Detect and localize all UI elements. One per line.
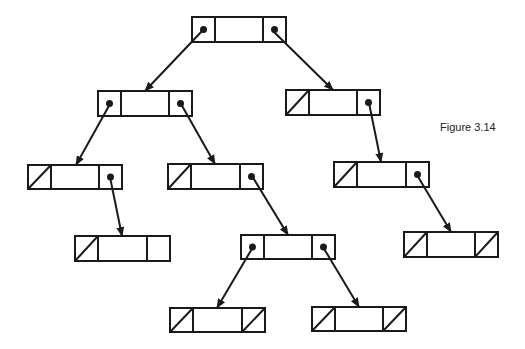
pointer-arrow-l-to-ll [76, 104, 110, 165]
node-box [170, 308, 265, 332]
tree-node-lr [168, 164, 263, 189]
nodes-layer [28, 17, 498, 332]
pointer-arrow-lrr-to-lrrr [323, 247, 359, 307]
tree-node-lrrl [170, 308, 265, 332]
tree-node-ll [28, 165, 122, 189]
tree-node-r [286, 90, 380, 115]
binary-tree-diagram [0, 0, 525, 349]
node-box [404, 232, 498, 257]
tree-node-rrr [404, 232, 498, 257]
tree-node-root [192, 17, 286, 42]
tree-node-rr [334, 162, 429, 187]
pointer-arrow-lrr-to-lrrl [217, 247, 253, 308]
node-box [312, 307, 406, 331]
figure-caption: Figure 3.14 [440, 121, 496, 133]
tree-node-lrr [241, 235, 335, 259]
tree-node-llr [75, 236, 170, 261]
pointer-arrow-rr-to-rrr [417, 175, 451, 232]
pointer-arrow-lr-to-lrr [252, 176, 288, 235]
pointer-arrow-l-to-lr [181, 104, 215, 164]
pointer-arrow-root-to-l [145, 30, 203, 91]
tree-node-l [98, 91, 192, 116]
tree-node-lrrr [312, 307, 406, 331]
pointer-arrow-root-to-r [273, 31, 333, 90]
node-box [75, 236, 170, 261]
